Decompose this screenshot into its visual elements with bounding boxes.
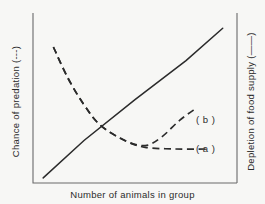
series-label-a: ( a ) <box>196 143 215 154</box>
series-label-b: ( b ) <box>196 114 215 125</box>
chart-figure: Chance of predation (---) Depletion of f… <box>0 0 265 204</box>
plot-area: ( b ) ( a ) <box>0 0 265 204</box>
axis-frame <box>33 13 237 183</box>
series-line-food-supply <box>43 28 223 178</box>
series-line-predation-b <box>53 47 196 146</box>
